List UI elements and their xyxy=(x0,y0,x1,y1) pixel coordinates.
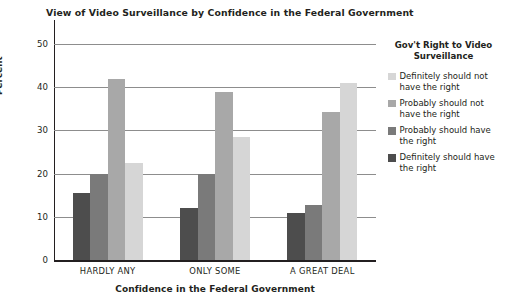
y-tick-label: 30 xyxy=(8,125,48,135)
plot-area xyxy=(54,44,376,260)
legend-swatch-icon xyxy=(388,127,396,135)
y-tick-label: 20 xyxy=(8,169,48,179)
x-tick-label: ONLY SOME xyxy=(189,266,240,276)
y-tick-label: 0 xyxy=(8,255,48,265)
legend-item-label: Definitely should have the right xyxy=(400,152,504,174)
bar-group xyxy=(287,44,357,260)
legend-item: Definitely should have the right xyxy=(388,152,503,174)
bar xyxy=(90,174,108,260)
bar xyxy=(108,79,126,260)
bar xyxy=(233,137,251,260)
bar xyxy=(198,174,216,260)
bar xyxy=(125,163,143,260)
legend-item: Definitely should not have the right xyxy=(388,71,503,93)
legend-item-label: Definitely should not have the right xyxy=(400,71,504,93)
bars-layer xyxy=(54,44,376,260)
y-tick-label: 40 xyxy=(8,82,48,92)
y-axis-title: Percent xyxy=(0,56,4,95)
legend-items: Definitely should not have the rightProb… xyxy=(388,71,503,174)
x-tick-label: HARDLY ANY xyxy=(80,266,136,276)
bar xyxy=(322,112,340,260)
legend-item: Probably should not have the right xyxy=(388,98,503,120)
bar xyxy=(340,83,358,260)
chart-title: View of Video Surveillance by Confidence… xyxy=(46,7,414,18)
legend-item-label: Probably should not have the right xyxy=(400,98,504,120)
legend-swatch-icon xyxy=(388,73,396,81)
legend-title: Gov't Right to Video Surveillance xyxy=(388,40,503,63)
bar-group xyxy=(180,44,250,260)
y-tick-label: 10 xyxy=(8,212,48,222)
bar-group xyxy=(73,44,143,260)
bar xyxy=(180,208,198,260)
bar xyxy=(305,205,323,260)
legend-swatch-icon xyxy=(388,154,396,162)
gridline-0 xyxy=(54,260,376,262)
legend-item-label: Probably should have the right xyxy=(400,125,504,147)
bar xyxy=(215,92,233,260)
bar xyxy=(73,193,91,260)
y-tick-label: 50 xyxy=(8,39,48,49)
x-tick-label: A GREAT DEAL xyxy=(290,266,355,276)
legend-swatch-icon xyxy=(388,100,396,108)
legend-item: Probably should have the right xyxy=(388,125,503,147)
bar xyxy=(287,213,305,260)
x-axis-title: Confidence in the Federal Government xyxy=(54,284,376,294)
chart-legend: Gov't Right to Video Surveillance Defini… xyxy=(388,40,503,179)
